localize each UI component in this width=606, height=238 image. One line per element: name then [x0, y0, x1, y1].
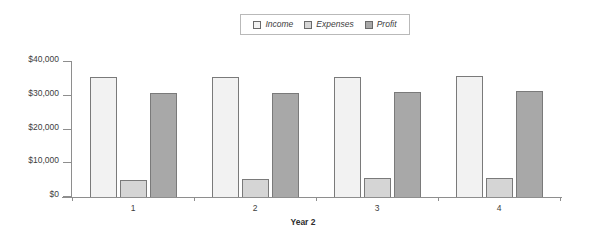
- bar-income[interactable]: [456, 76, 483, 198]
- x-axis-tick: [72, 197, 73, 201]
- x-axis-tick: [560, 197, 561, 201]
- legend-entry[interactable]: Income: [253, 20, 293, 29]
- legend-entry[interactable]: Profit: [365, 20, 397, 29]
- bar-expenses[interactable]: [486, 178, 513, 197]
- chart-legend: IncomeExpensesProfit: [240, 14, 410, 35]
- y-axis-tick-label: $30,000: [28, 89, 59, 98]
- x-axis-title: Year 2: [0, 218, 606, 227]
- bar-expenses[interactable]: [242, 179, 269, 197]
- legend-label: Income: [265, 20, 293, 29]
- y-axis-tick: $40,000: [63, 61, 72, 62]
- legend-swatch-icon: [365, 21, 373, 29]
- y-axis-tick-label: $0: [50, 190, 59, 199]
- y-axis-tick-label: $40,000: [28, 55, 59, 64]
- y-axis-tick-label: $10,000: [28, 156, 59, 165]
- y-axis-tick: $10,000: [63, 162, 72, 163]
- bar-group: [456, 62, 543, 197]
- x-axis-line: [62, 197, 562, 198]
- plot-area: $0$10,000$20,000$30,000$40,0001234: [72, 62, 560, 197]
- x-axis-tick: [438, 197, 439, 201]
- bar-group: [334, 62, 421, 197]
- x-axis-label: 4: [479, 204, 519, 213]
- bar-profit[interactable]: [272, 93, 299, 197]
- legend-label: Profit: [377, 20, 397, 29]
- y-axis-tick-label: $20,000: [28, 123, 59, 132]
- bar-profit[interactable]: [150, 93, 177, 197]
- bar-group: [90, 62, 177, 197]
- bar-income[interactable]: [334, 77, 361, 197]
- legend-label: Expenses: [316, 20, 353, 29]
- legend-swatch-icon: [304, 21, 312, 29]
- x-axis-label: 1: [113, 204, 153, 213]
- x-axis-label: 3: [357, 204, 397, 213]
- x-axis-tick: [194, 197, 195, 201]
- bar-chart: IncomeExpensesProfit $0$10,000$20,000$30…: [0, 0, 606, 238]
- bar-income[interactable]: [212, 77, 239, 197]
- bar-expenses[interactable]: [364, 178, 391, 197]
- x-axis-tick: [316, 197, 317, 201]
- bar-expenses[interactable]: [120, 180, 147, 197]
- legend-swatch-icon: [253, 21, 261, 29]
- x-axis-label: 2: [235, 204, 275, 213]
- bar-profit[interactable]: [394, 92, 421, 197]
- bar-profit[interactable]: [516, 91, 543, 197]
- y-axis-tick: $20,000: [63, 129, 72, 130]
- bar-group: [212, 62, 299, 197]
- legend-entry[interactable]: Expenses: [304, 20, 353, 29]
- y-axis-tick: $0: [63, 196, 72, 197]
- y-axis-tick: $30,000: [63, 95, 72, 96]
- bar-income[interactable]: [90, 77, 117, 197]
